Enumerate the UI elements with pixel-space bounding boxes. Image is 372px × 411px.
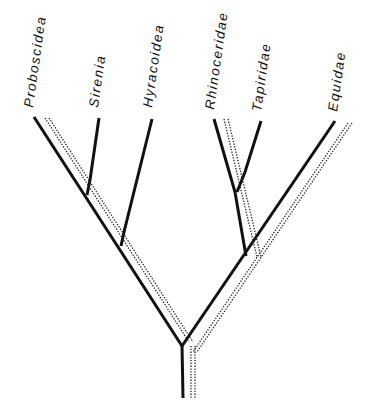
branch-sirenia	[87, 118, 99, 195]
dotted-tracks	[45, 118, 352, 398]
dotted-track-proboscidea-b	[49, 118, 193, 342]
dotted-track-equidae-b	[197, 123, 352, 352]
branch-hyracoidea	[121, 119, 152, 246]
dotted-track-tapiridae-a	[224, 119, 257, 257]
label-rhinoceridae: Rhinoceridae	[202, 11, 231, 111]
dotted-track-equidae-a	[193, 123, 348, 352]
label-sirenia: Sirenia	[86, 54, 108, 109]
cladogram-diagram: Proboscidea Sirenia Hyracoidea Rhinoceri…	[0, 0, 372, 411]
root-trunk	[182, 345, 183, 398]
branch-rhinoceridae	[214, 119, 246, 256]
label-hyracoidea: Hyracoidea	[140, 23, 167, 109]
label-proboscidea: Proboscidea	[21, 15, 49, 109]
solid-branches	[34, 117, 335, 398]
label-tapiridae: Tapiridae	[249, 42, 274, 113]
dotted-track-proboscidea-a	[45, 118, 189, 342]
branch-proboscidea	[34, 117, 182, 346]
label-equidae: Equidae	[325, 50, 348, 112]
branch-tapiridae	[237, 121, 261, 192]
branch-equidae	[182, 121, 335, 346]
cladogram-svg: Proboscidea Sirenia Hyracoidea Rhinoceri…	[0, 0, 372, 411]
